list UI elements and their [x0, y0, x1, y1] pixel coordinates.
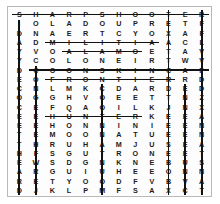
grid-cell[interactable]: T: [11, 140, 28, 149]
grid-cell[interactable]: G: [44, 167, 61, 176]
grid-cell[interactable]: O: [61, 121, 78, 130]
grid-cell[interactable]: E: [177, 121, 194, 130]
grid-cell[interactable]: A: [177, 29, 194, 38]
grid-cell[interactable]: I: [127, 75, 144, 84]
grid-cell[interactable]: U: [144, 140, 161, 149]
grid-cell[interactable]: T: [11, 130, 28, 139]
grid-cell[interactable]: Y: [11, 47, 28, 56]
grid-cell[interactable]: D: [110, 84, 127, 93]
grid-cell[interactable]: T: [110, 38, 127, 47]
grid-cell[interactable]: K: [77, 84, 94, 93]
grid-cell[interactable]: N: [94, 75, 111, 84]
grid-cell[interactable]: E: [177, 112, 194, 121]
grid-cell[interactable]: O: [127, 47, 144, 56]
grid-cell[interactable]: O: [94, 93, 111, 102]
grid-cell[interactable]: K: [44, 186, 61, 195]
grid-cell[interactable]: D: [193, 75, 210, 84]
grid-cell[interactable]: L: [127, 103, 144, 112]
grid-cell[interactable]: I: [144, 121, 161, 130]
grid-cell[interactable]: H: [110, 167, 127, 176]
grid-cell[interactable]: O: [77, 130, 94, 139]
grid-cell[interactable]: T: [193, 149, 210, 158]
grid-cell[interactable]: E: [177, 149, 194, 158]
grid-cell[interactable]: O: [28, 19, 45, 28]
grid-cell[interactable]: S: [44, 158, 61, 167]
grid-cell[interactable]: C: [28, 56, 45, 65]
grid-cell[interactable]: V: [28, 47, 45, 56]
grid-cell[interactable]: N: [127, 121, 144, 130]
grid-cell[interactable]: O: [77, 177, 94, 186]
grid-cell[interactable]: O: [28, 75, 45, 84]
grid-cell[interactable]: Z: [193, 93, 210, 102]
grid-cell[interactable]: X: [193, 103, 210, 112]
grid-cell[interactable]: K: [144, 103, 161, 112]
grid-cell[interactable]: P: [77, 186, 94, 195]
grid-cell[interactable]: C: [160, 66, 177, 75]
grid-cell[interactable]: E: [160, 130, 177, 139]
grid-cell[interactable]: T: [127, 130, 144, 139]
grid-cell[interactable]: R: [193, 10, 210, 19]
grid-cell[interactable]: S: [94, 10, 111, 19]
grid-cell[interactable]: K: [110, 158, 127, 167]
grid-cell[interactable]: N: [177, 103, 194, 112]
grid-cell[interactable]: L: [77, 47, 94, 56]
grid-cell[interactable]: T: [160, 56, 177, 65]
grid-cell[interactable]: N: [144, 66, 161, 75]
grid-cell[interactable]: A: [193, 140, 210, 149]
grid-cell[interactable]: V: [193, 56, 210, 65]
grid-cell[interactable]: H: [110, 10, 127, 19]
grid-cell[interactable]: A: [11, 38, 28, 47]
grid-cell[interactable]: T: [160, 10, 177, 19]
grid-cell[interactable]: E: [28, 177, 45, 186]
grid-cell[interactable]: C: [110, 29, 127, 38]
grid-cell[interactable]: A: [94, 140, 111, 149]
grid-cell[interactable]: N: [28, 84, 45, 93]
grid-cell[interactable]: T: [44, 177, 61, 186]
grid-cell[interactable]: E: [11, 112, 28, 121]
grid-cell[interactable]: J: [127, 140, 144, 149]
grid-cell[interactable]: S: [160, 140, 177, 149]
grid-cell[interactable]: O: [44, 66, 61, 75]
grid-cell[interactable]: N: [193, 130, 210, 139]
grid-cell[interactable]: K: [144, 112, 161, 121]
grid-cell[interactable]: X: [160, 186, 177, 195]
grid-cell[interactable]: D: [61, 158, 78, 167]
grid-cell[interactable]: E: [160, 149, 177, 158]
grid-cell[interactable]: C: [94, 84, 111, 93]
grid-cell[interactable]: O: [44, 47, 61, 56]
grid-cell[interactable]: N: [193, 121, 210, 130]
grid-cell[interactable]: N: [94, 130, 111, 139]
grid-cell[interactable]: E: [177, 10, 194, 19]
grid-cell[interactable]: Y: [11, 56, 28, 65]
grid-cell[interactable]: S: [11, 10, 28, 19]
grid-cell[interactable]: R: [110, 149, 127, 158]
grid-cell[interactable]: M: [44, 38, 61, 47]
grid-cell[interactable]: A: [177, 47, 194, 56]
grid-cell[interactable]: A: [61, 19, 78, 28]
grid-cell[interactable]: S: [193, 158, 210, 167]
grid-cell[interactable]: C: [28, 66, 45, 75]
grid-cell[interactable]: H: [44, 121, 61, 130]
grid-cell[interactable]: I: [127, 56, 144, 65]
grid-cell[interactable]: F: [193, 29, 210, 38]
grid-cell[interactable]: A: [144, 186, 161, 195]
grid-cell[interactable]: A: [144, 38, 161, 47]
grid-cell[interactable]: U: [94, 167, 111, 176]
grid-cell[interactable]: R: [127, 112, 144, 121]
grid-cell[interactable]: R: [160, 75, 177, 84]
grid-cell[interactable]: N: [77, 112, 94, 121]
grid-cell[interactable]: A: [127, 84, 144, 93]
grid-cell[interactable]: O: [94, 177, 111, 186]
grid-cell[interactable]: T: [94, 29, 111, 38]
grid-cell[interactable]: A: [77, 103, 94, 112]
grid-cell[interactable]: O: [44, 56, 61, 65]
grid-cell[interactable]: U: [61, 140, 78, 149]
grid-cell[interactable]: U: [144, 130, 161, 139]
grid-cell[interactable]: H: [44, 112, 61, 121]
grid-cell[interactable]: E: [177, 84, 194, 93]
grid-cell[interactable]: E: [61, 29, 78, 38]
grid-cell[interactable]: S: [94, 66, 111, 75]
grid-cell[interactable]: A: [11, 167, 28, 176]
grid-cell[interactable]: M: [110, 140, 127, 149]
grid-cell[interactable]: C: [177, 186, 194, 195]
